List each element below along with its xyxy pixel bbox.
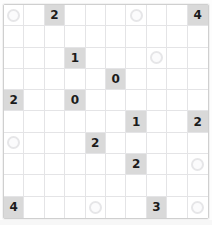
grid-cell-r6-c4[interactable]: 2 xyxy=(86,133,106,154)
grid-cell-r0-c0[interactable] xyxy=(4,5,24,26)
grid-cell-r6-c3[interactable] xyxy=(65,133,85,154)
grid-cell-r0-c7[interactable] xyxy=(147,5,167,26)
circle-marker-icon[interactable] xyxy=(191,201,204,214)
grid-cell-r4-c5[interactable] xyxy=(106,90,126,111)
circle-marker-icon[interactable] xyxy=(191,158,204,171)
grid-cell-r7-c5[interactable] xyxy=(106,154,126,175)
grid-cell-r9-c6[interactable] xyxy=(126,197,146,218)
grid-cell-r5-c1[interactable] xyxy=(24,111,44,132)
grid-cell-r7-c4[interactable] xyxy=(86,154,106,175)
grid-cell-r8-c8[interactable] xyxy=(167,175,187,196)
grid-cell-r7-c2[interactable] xyxy=(45,154,65,175)
grid-cell-r0-c8[interactable] xyxy=(167,5,187,26)
grid-cell-r4-c6[interactable] xyxy=(126,90,146,111)
grid-cell-r6-c2[interactable] xyxy=(45,133,65,154)
circle-marker-icon[interactable] xyxy=(150,51,163,64)
grid-cell-r1-c6[interactable] xyxy=(126,26,146,47)
grid-cell-r9-c8[interactable] xyxy=(167,197,187,218)
grid-cell-r1-c2[interactable] xyxy=(45,26,65,47)
grid-cell-r0-c9[interactable]: 4 xyxy=(188,5,208,26)
grid-cell-r4-c3[interactable]: 0 xyxy=(65,90,85,111)
grid-cell-r8-c2[interactable] xyxy=(45,175,65,196)
grid-cell-r8-c1[interactable] xyxy=(24,175,44,196)
grid-cell-r6-c5[interactable] xyxy=(106,133,126,154)
grid-cell-r6-c8[interactable] xyxy=(167,133,187,154)
circle-marker-icon[interactable] xyxy=(7,136,20,149)
grid-cell-r1-c5[interactable] xyxy=(106,26,126,47)
grid-cell-r3-c8[interactable] xyxy=(167,69,187,90)
grid-cell-r4-c1[interactable] xyxy=(24,90,44,111)
grid-cell-r6-c1[interactable] xyxy=(24,133,44,154)
grid-cell-r7-c6[interactable]: 2 xyxy=(126,154,146,175)
grid-cell-r4-c0[interactable]: 2 xyxy=(4,90,24,111)
grid-cell-r8-c7[interactable] xyxy=(147,175,167,196)
grid-cell-r5-c8[interactable] xyxy=(167,111,187,132)
grid-cell-r1-c8[interactable] xyxy=(167,26,187,47)
grid-cell-r4-c7[interactable] xyxy=(147,90,167,111)
grid-cell-r0-c2[interactable]: 2 xyxy=(45,5,65,26)
grid-cell-r7-c1[interactable] xyxy=(24,154,44,175)
grid-cell-r5-c9[interactable]: 2 xyxy=(188,111,208,132)
grid-cell-r0-c3[interactable] xyxy=(65,5,85,26)
grid-cell-r4-c8[interactable] xyxy=(167,90,187,111)
circle-marker-icon[interactable] xyxy=(130,9,143,22)
grid-cell-r9-c4[interactable] xyxy=(86,197,106,218)
grid-cell-r5-c6[interactable]: 1 xyxy=(126,111,146,132)
grid-cell-r5-c4[interactable] xyxy=(86,111,106,132)
grid-cell-r2-c8[interactable] xyxy=(167,48,187,69)
grid-cell-r2-c4[interactable] xyxy=(86,48,106,69)
grid-cell-r9-c0[interactable]: 4 xyxy=(4,197,24,218)
puzzle-grid[interactable]: 241020122243 xyxy=(4,5,208,218)
grid-cell-r5-c5[interactable] xyxy=(106,111,126,132)
grid-cell-r1-c4[interactable] xyxy=(86,26,106,47)
grid-cell-r2-c0[interactable] xyxy=(4,48,24,69)
grid-cell-r3-c3[interactable] xyxy=(65,69,85,90)
grid-cell-r1-c7[interactable] xyxy=(147,26,167,47)
grid-cell-r2-c2[interactable] xyxy=(45,48,65,69)
grid-cell-r8-c9[interactable] xyxy=(188,175,208,196)
grid-cell-r9-c3[interactable] xyxy=(65,197,85,218)
grid-cell-r5-c7[interactable] xyxy=(147,111,167,132)
grid-cell-r5-c2[interactable] xyxy=(45,111,65,132)
grid-cell-r3-c9[interactable] xyxy=(188,69,208,90)
grid-cell-r7-c9[interactable] xyxy=(188,154,208,175)
grid-cell-r0-c4[interactable] xyxy=(86,5,106,26)
grid-cell-r2-c9[interactable] xyxy=(188,48,208,69)
grid-cell-r7-c3[interactable] xyxy=(65,154,85,175)
grid-cell-r6-c0[interactable] xyxy=(4,133,24,154)
circle-marker-icon[interactable] xyxy=(7,9,20,22)
grid-cell-r3-c6[interactable] xyxy=(126,69,146,90)
grid-cell-r7-c8[interactable] xyxy=(167,154,187,175)
grid-cell-r2-c7[interactable] xyxy=(147,48,167,69)
grid-cell-r8-c0[interactable] xyxy=(4,175,24,196)
grid-cell-r9-c5[interactable] xyxy=(106,197,126,218)
grid-cell-r2-c6[interactable] xyxy=(126,48,146,69)
circle-marker-icon[interactable] xyxy=(89,201,102,214)
grid-cell-r8-c6[interactable] xyxy=(126,175,146,196)
grid-cell-r5-c3[interactable] xyxy=(65,111,85,132)
grid-cell-r2-c5[interactable] xyxy=(106,48,126,69)
grid-cell-r9-c7[interactable]: 3 xyxy=(147,197,167,218)
grid-cell-r4-c4[interactable] xyxy=(86,90,106,111)
grid-cell-r8-c5[interactable] xyxy=(106,175,126,196)
grid-cell-r6-c6[interactable] xyxy=(126,133,146,154)
grid-cell-r5-c0[interactable] xyxy=(4,111,24,132)
grid-cell-r4-c9[interactable] xyxy=(188,90,208,111)
grid-cell-r3-c4[interactable] xyxy=(86,69,106,90)
grid-cell-r8-c3[interactable] xyxy=(65,175,85,196)
grid-cell-r2-c1[interactable] xyxy=(24,48,44,69)
grid-cell-r7-c0[interactable] xyxy=(4,154,24,175)
grid-cell-r1-c1[interactable] xyxy=(24,26,44,47)
grid-cell-r3-c5[interactable]: 0 xyxy=(106,69,126,90)
grid-cell-r0-c6[interactable] xyxy=(126,5,146,26)
grid-cell-r3-c2[interactable] xyxy=(45,69,65,90)
grid-cell-r0-c5[interactable] xyxy=(106,5,126,26)
grid-cell-r8-c4[interactable] xyxy=(86,175,106,196)
grid-cell-r9-c1[interactable] xyxy=(24,197,44,218)
grid-cell-r9-c9[interactable] xyxy=(188,197,208,218)
grid-cell-r1-c3[interactable] xyxy=(65,26,85,47)
grid-cell-r1-c0[interactable] xyxy=(4,26,24,47)
grid-cell-r6-c9[interactable] xyxy=(188,133,208,154)
grid-cell-r1-c9[interactable] xyxy=(188,26,208,47)
grid-cell-r3-c7[interactable] xyxy=(147,69,167,90)
